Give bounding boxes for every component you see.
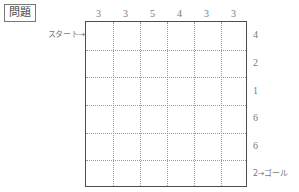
- column-label: 3: [112, 6, 139, 21]
- grid-vertical-line: [194, 22, 195, 186]
- grid-horizontal-line: [86, 133, 246, 134]
- puzzle-grid-lines: [86, 22, 246, 186]
- row-label: 1: [249, 76, 299, 104]
- grid-horizontal-line: [86, 50, 246, 51]
- grid-vertical-line: [113, 22, 114, 186]
- column-label: 3: [220, 6, 247, 21]
- problem-title-box: 問題: [4, 4, 36, 22]
- column-label: 5: [139, 6, 166, 21]
- start-label: スタート→: [38, 21, 85, 48]
- puzzle-grid[interactable]: [85, 21, 247, 187]
- grid-horizontal-line: [86, 105, 246, 106]
- row-labels: 4 2 1 6 6 2→ゴール: [249, 21, 299, 187]
- row-label: 6: [249, 132, 299, 160]
- grid-vertical-line: [221, 22, 222, 186]
- row-label: 6: [249, 104, 299, 132]
- grid-horizontal-line: [86, 160, 246, 161]
- grid-vertical-line: [140, 22, 141, 186]
- column-label: 3: [85, 6, 112, 21]
- column-label: 4: [166, 6, 193, 21]
- row-label: 4: [249, 21, 299, 49]
- grid-horizontal-line: [86, 77, 246, 78]
- column-labels: 3 3 5 4 3 3: [85, 6, 247, 21]
- goal-label: 2→ゴール: [249, 159, 299, 187]
- column-label: 3: [193, 6, 220, 21]
- grid-vertical-line: [167, 22, 168, 186]
- row-label: 2: [249, 49, 299, 77]
